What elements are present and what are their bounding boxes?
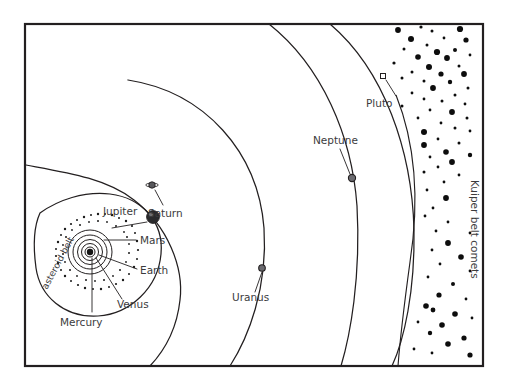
label-jupiter: Jupiter [102,205,138,217]
sun [87,249,93,255]
neptune-marker [348,174,355,181]
label-neptune: Neptune [313,134,358,146]
label-earth: Earth [140,264,168,276]
label-venus: Venus [117,298,149,310]
label-pluto: Pluto [366,97,392,109]
pluto-marker [381,74,386,79]
solar-system-canvas: Mercury Venus Earth Mars Jupiter Saturn … [0,0,506,390]
label-uranus: Uranus [232,291,269,303]
label-kuiper-belt-comets: Kuiper belt comets [469,180,481,279]
label-mars: Mars [140,234,165,246]
label-saturn: Saturn [148,207,183,219]
uranus-marker [259,265,266,272]
solar-system-diagram: Mercury Venus Earth Mars Jupiter Saturn … [0,0,506,390]
label-mercury: Mercury [60,316,103,328]
